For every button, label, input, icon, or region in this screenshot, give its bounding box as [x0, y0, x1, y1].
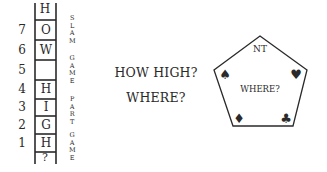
side-label-slam-text: SLAM [68, 14, 75, 44]
side-label-part-text: PART [68, 95, 75, 125]
diamond-icon: ♦ [232, 112, 246, 125]
side-label-slam: SLAM [68, 14, 78, 44]
row-letter-7: O [36, 23, 56, 37]
row-letter-1: H [36, 136, 56, 150]
row-letter-4: H [36, 82, 56, 96]
row-letter-6: W [36, 43, 56, 57]
row-letter-3: I [36, 100, 56, 114]
row-number-7: 7 [15, 23, 29, 37]
side-label-game-lower-text: GAME [68, 131, 75, 161]
row-letter-2: G [36, 118, 56, 132]
side-label-game-upper: GAME [68, 54, 78, 84]
side-label-game-upper-text: GAME [68, 54, 75, 84]
side-label-part: PART [68, 95, 78, 125]
pentagon-nt-label: NT [245, 44, 275, 54]
row-number-3: 3 [15, 100, 29, 114]
side-label-game-lower: GAME [68, 131, 78, 161]
row-number-6: 6 [15, 43, 29, 57]
pentagon-where-label: WHERE? [230, 84, 290, 94]
row-number-1: 1 [15, 136, 29, 150]
ladder-top-letter: H [35, 2, 55, 16]
spade-icon: ♠ [218, 68, 232, 81]
heart-icon: ♥ [289, 68, 303, 81]
ladder-bottom-label: ? [35, 151, 55, 164]
how-high-heading: HOW HIGH? [101, 65, 211, 80]
row-number-5: 5 [15, 63, 29, 77]
row-number-4: 4 [15, 82, 29, 96]
row-number-2: 2 [15, 118, 29, 132]
club-icon: ♣ [279, 112, 293, 125]
where-heading: WHERE? [101, 90, 211, 105]
